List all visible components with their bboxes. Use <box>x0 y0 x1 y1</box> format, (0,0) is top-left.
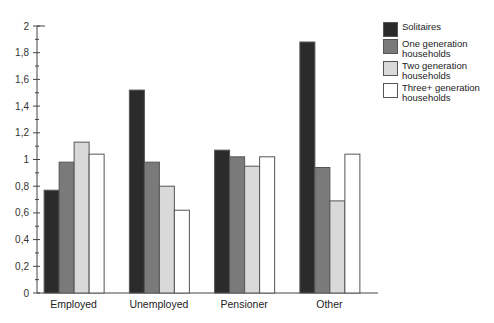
bar-pensioner-1 <box>230 157 245 293</box>
x-category-label: Unemployed <box>129 298 188 310</box>
legend-swatch-three-plus-generation <box>383 83 398 98</box>
bar-unemployed-0 <box>129 90 144 293</box>
y-tick-label: 1,8 <box>15 47 29 58</box>
legend-label-line2: households <box>402 48 451 59</box>
bar-other-1 <box>315 168 330 293</box>
y-tick-label: 0,2 <box>15 261 29 272</box>
bar-unemployed-1 <box>144 162 159 293</box>
bar-other-2 <box>330 201 345 293</box>
legend-item-three-plus-generation: Three+ generationhouseholds <box>383 83 493 103</box>
legend-label-line2: households <box>402 70 451 81</box>
bar-employed-1 <box>59 162 74 293</box>
y-tick-label: 0,4 <box>15 234 29 245</box>
x-category-label: Employed <box>50 298 97 310</box>
legend-label: Solitaires <box>402 21 441 32</box>
legend-item-one-generation: One generationhouseholds <box>383 39 493 59</box>
bar-pensioner-3 <box>260 157 275 293</box>
bar-employed-3 <box>89 154 104 293</box>
x-category-label: Other <box>316 298 343 310</box>
y-tick-label: 0,8 <box>15 181 29 192</box>
bar-employed-2 <box>74 142 89 293</box>
y-tick-label: 2 <box>23 21 29 32</box>
y-tick-label: 1 <box>23 154 29 165</box>
bar-other-0 <box>300 42 315 293</box>
bar-pensioner-2 <box>245 166 260 293</box>
legend-swatch-solitaires <box>383 22 398 37</box>
y-tick-label: 0 <box>23 288 29 299</box>
bar-pensioner-0 <box>215 150 230 293</box>
legend-item-two-generation: Two generationhouseholds <box>383 61 493 81</box>
bar-unemployed-2 <box>159 186 174 293</box>
chart-legend: Solitaires One generationhouseholds Two … <box>383 22 493 105</box>
y-tick-label: 0,6 <box>15 207 29 218</box>
legend-item-solitaires: Solitaires <box>383 22 493 37</box>
x-category-label: Pensioner <box>220 298 268 310</box>
legend-swatch-one-generation <box>383 39 398 54</box>
y-tick-label: 1,4 <box>15 101 29 112</box>
y-tick-label: 1,6 <box>15 74 29 85</box>
legend-label-line2: households <box>402 92 451 103</box>
bar-other-3 <box>345 154 360 293</box>
bar-unemployed-3 <box>174 210 189 293</box>
legend-swatch-two-generation <box>383 61 398 76</box>
y-tick-label: 1,2 <box>15 127 29 138</box>
bar-employed-0 <box>44 190 59 293</box>
